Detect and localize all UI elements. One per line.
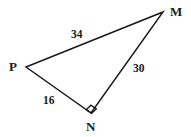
vertex-label-p: P [9, 60, 17, 73]
side-length-label-pm: 34 [71, 29, 83, 41]
vertex-label-n: N [86, 120, 96, 133]
side-length-label-mn: 30 [133, 63, 145, 75]
vertex-label-m: M [170, 5, 182, 18]
geometry-figure: M P N 34 30 16 [0, 0, 191, 137]
side-length-label-pn: 16 [43, 95, 55, 107]
triangle-diagram-svg [0, 0, 191, 137]
